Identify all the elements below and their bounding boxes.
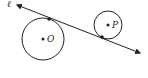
center-point-p	[107, 24, 110, 27]
line-label: ℓ	[7, 0, 11, 9]
circle-o-label: O	[47, 34, 55, 44]
circle-p-label: P	[111, 20, 119, 30]
tangent-point-p	[100, 35, 104, 39]
tangent-point-o	[47, 17, 51, 21]
center-point-o	[42, 38, 45, 41]
tangent-diagram: ℓ O P	[0, 0, 148, 78]
